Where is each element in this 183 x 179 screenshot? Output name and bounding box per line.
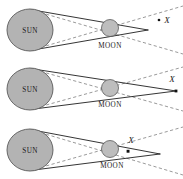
moon-label: MOON [100,162,124,170]
point-x-dot [158,19,161,22]
moon-label: MOON [98,101,122,109]
moon-disc [102,20,119,37]
eclipse-geometry-figure: SUN MOON X SUN MOON X [0,0,183,179]
moon-label: MOON [98,42,122,50]
moon-disc [102,141,119,158]
point-x-label: X [163,15,170,25]
diagram-panel-exact: SUN MOON X [0,59,183,118]
diagram-panel-total: SUN MOON X [0,119,183,178]
point-x-dot [127,150,130,153]
sun-label: SUN [22,86,38,94]
moon-disc [102,80,119,97]
sun-label: SUN [22,27,38,35]
point-x-dot [175,90,178,93]
diagram-panel-annular: SUN MOON X [0,0,183,59]
point-x-label: X [168,74,175,84]
point-x-label: X [127,135,134,145]
sun-label: SUN [22,147,38,155]
